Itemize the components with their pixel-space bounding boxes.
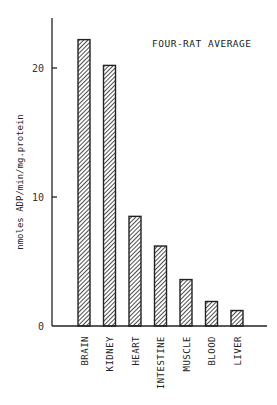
x-tick-label: INTESTINE <box>156 336 166 389</box>
y-axis-label: nmoles ADP/min/mg.protein <box>15 114 25 249</box>
y-tick-label: 20 <box>32 63 44 74</box>
x-tick-label: HEART <box>131 336 141 366</box>
bar-heart <box>129 216 141 326</box>
x-tick-label: LIVER <box>233 336 243 366</box>
y-tick-label: 10 <box>32 192 44 203</box>
y-tick-label: 0 <box>38 321 44 332</box>
bar-chart: 01020 BRAINKIDNEYHEARTINTESTINEMUSCLEBLO… <box>0 0 277 405</box>
bar-intestine <box>155 246 167 326</box>
bar-blood <box>206 301 218 326</box>
chart-title: FOUR-RAT AVERAGE <box>152 38 252 49</box>
bar-brain <box>78 40 90 326</box>
x-tick-label: KIDNEY <box>105 336 115 372</box>
bar-kidney <box>104 65 116 326</box>
x-tick-label: BLOOD <box>207 336 217 366</box>
bar-muscle <box>180 280 192 326</box>
bar-liver <box>231 311 243 326</box>
x-tick-label: BRAIN <box>80 336 90 366</box>
x-tick-label: MUSCLE <box>182 336 192 372</box>
